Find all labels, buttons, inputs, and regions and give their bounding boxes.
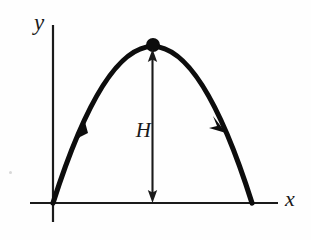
y-axis-label: y — [34, 11, 44, 34]
scan-artifact-speck — [9, 171, 12, 174]
x-axis-label: x — [285, 188, 295, 210]
max-height-label: H — [133, 120, 151, 141]
apex-point-marker-icon — [146, 38, 160, 52]
trajectory-diagram-canvas — [0, 0, 311, 240]
projectile-trajectory-figure: y x H — [0, 0, 311, 240]
